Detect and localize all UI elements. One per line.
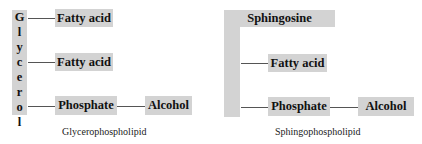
phosphate-box: Phosphate	[268, 97, 330, 116]
glycerol-letter: c	[17, 55, 23, 70]
glycerol-letter: o	[16, 100, 22, 115]
connector-line	[241, 107, 268, 108]
fatty-acid-1-box: Fatty acid	[55, 9, 113, 27]
phosphate-box: Phosphate	[55, 96, 117, 115]
sphingophospholipid-caption: Sphingophospholipid	[275, 126, 361, 137]
connector-line	[28, 18, 55, 19]
alcohol-box: Alcohol	[145, 96, 192, 115]
glycerol-letter: G	[15, 10, 25, 25]
glycerol-letter: l	[18, 115, 21, 130]
glycerol-backbone-label: G l y c e r o l	[12, 10, 27, 115]
sphingosine-box: Sphingosine	[224, 10, 335, 27]
glycerophospholipid-caption: Glycerophospholipid	[62, 126, 146, 137]
glycerol-letter: r	[17, 85, 23, 100]
glycerol-letter: l	[18, 25, 21, 40]
glycerol-letter: e	[17, 70, 23, 85]
fatty-acid-box: Fatty acid	[268, 54, 327, 72]
connector-line	[241, 63, 268, 64]
alcohol-box: Alcohol	[358, 97, 414, 116]
connector-line	[330, 107, 358, 108]
fatty-acid-2-box: Fatty acid	[55, 53, 113, 71]
connector-line	[117, 106, 145, 107]
connector-line	[28, 62, 55, 63]
glycerol-letter: y	[16, 40, 22, 55]
connector-line	[28, 106, 55, 107]
